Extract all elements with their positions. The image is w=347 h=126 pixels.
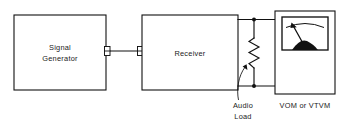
audio-load-label-line2: Load (234, 112, 251, 121)
coax-connector-left (105, 47, 111, 56)
output-wiring (238, 18, 275, 89)
coaxial-cable (105, 47, 144, 56)
junction-dot-top (252, 18, 256, 22)
meter-block: VOM or VTVM (275, 11, 335, 110)
block-diagram-canvas: Signal Generator Receiver (0, 0, 347, 126)
receiver-block: Receiver (142, 15, 238, 90)
signal-generator-label-line1: Signal (49, 43, 71, 52)
signal-generator-block: Signal Generator (14, 15, 106, 90)
diagram-svg: Signal Generator Receiver (0, 0, 347, 126)
resistor-zigzag (249, 38, 259, 68)
audio-load-label-line1: Audio (233, 101, 253, 110)
signal-generator-label-line2: Generator (42, 54, 78, 63)
audio-load-leader-line (238, 67, 246, 101)
meter-label: VOM or VTVM (280, 101, 331, 110)
audio-load-resistor (249, 38, 259, 68)
receiver-label: Receiver (174, 49, 205, 58)
junction-dot-bottom (252, 84, 256, 88)
signal-generator-box (14, 15, 106, 90)
